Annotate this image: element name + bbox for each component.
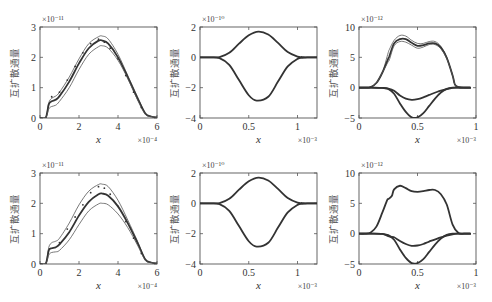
x-tick-label: 2 (77, 121, 82, 132)
x-exponent-label: ×10⁻³ (457, 136, 477, 145)
data-point (82, 204, 84, 206)
x-tick-label: 0.5 (243, 267, 256, 278)
data-point (125, 75, 127, 77)
x-axis-label: x (255, 279, 261, 291)
x-tick-label: 0.5 (411, 121, 424, 132)
series-line-negative-deep (359, 234, 470, 264)
series-line-negative (200, 203, 317, 246)
series-line-lower (359, 41, 470, 87)
plot-area (359, 35, 470, 118)
axes-frame (359, 173, 476, 264)
data-point (117, 205, 119, 207)
x-tick-label: 0.5 (411, 267, 424, 278)
data-point (103, 41, 105, 43)
y-axis-label: 互扩散通量 (169, 194, 180, 244)
data-point (90, 43, 92, 45)
series-line-positive (200, 32, 317, 58)
x-tick-label: 2 (77, 267, 82, 278)
series-line-mean (40, 40, 157, 119)
y-tick-label: 0 (350, 228, 355, 239)
x-tick-label: 1 (474, 121, 479, 132)
axes-frame (200, 27, 317, 118)
plot-area (359, 186, 470, 264)
y-tick-label: 3 (31, 168, 36, 179)
y-tick-label: 10 (345, 22, 355, 33)
y-tick-label: −4 (185, 259, 196, 270)
data-point (109, 193, 111, 195)
x-tick-label: 4 (116, 121, 121, 132)
y-exponent-label: ×10⁻¹⁰ (202, 15, 224, 24)
x-exponent-label: ×10⁻⁴ (137, 136, 157, 145)
y-exponent-label: ×10⁻¹¹ (42, 161, 64, 170)
data-point (74, 66, 76, 68)
data-point (117, 58, 119, 60)
series-line-negative (200, 57, 317, 100)
x-axis-label: x (414, 279, 420, 291)
y-tick-label: 10 (345, 168, 355, 179)
subplot-bottom-middle: 00.51−4−202×10⁻¹⁰×10⁻³x互扩散通量 (169, 161, 318, 291)
x-tick-label: 0.5 (243, 121, 256, 132)
y-tick-label: −4 (185, 113, 196, 124)
x-axis-label: x (95, 279, 101, 291)
data-point (141, 106, 143, 108)
y-axis-label: 互扩散通量 (9, 48, 20, 98)
figure: 02460123×10⁻¹¹×10⁻⁴x互扩散通量00.51−4−202×10⁻… (0, 0, 492, 302)
x-tick-label: 1 (295, 267, 300, 278)
data-point (98, 38, 100, 40)
data-point (125, 221, 127, 223)
data-point (74, 216, 76, 218)
data-point (141, 252, 143, 254)
plot-area (40, 184, 157, 265)
y-axis-label: 互扩散通量 (9, 194, 20, 244)
series-line-lower (40, 46, 157, 119)
y-axis-label: 互扩散通量 (169, 48, 180, 98)
subplot-bottom-right: 00.51−50510×10⁻¹²×10⁻³x互扩散通量 (328, 161, 479, 291)
data-point (133, 237, 135, 239)
plot-area (40, 36, 157, 119)
y-tick-label: 0 (191, 198, 196, 209)
data-point (59, 242, 61, 244)
data-point (133, 91, 135, 93)
x-tick-label: 4 (116, 267, 121, 278)
data-point (66, 79, 68, 81)
y-axis-label: 互扩散通量 (328, 48, 339, 98)
data-point (66, 228, 68, 230)
x-tick-label: 0 (357, 267, 362, 278)
x-tick-label: 0 (357, 121, 362, 132)
plot-area (200, 32, 317, 101)
series-line-positive (359, 186, 470, 234)
y-tick-label: 5 (350, 52, 355, 63)
x-tick-label: 0 (38, 267, 43, 278)
y-tick-label: 2 (31, 198, 36, 209)
x-tick-label: 1 (474, 267, 479, 278)
subplot-top-right: 00.51−50510×10⁻¹²×10⁻³x互扩散通量 (328, 15, 479, 145)
y-tick-label: 2 (31, 52, 36, 63)
data-point (49, 248, 51, 250)
series-line-positive (200, 178, 317, 204)
y-tick-label: 5 (350, 198, 355, 209)
plot-area (200, 178, 317, 247)
y-tick-label: −2 (185, 82, 196, 93)
y-exponent-label: ×10⁻¹⁰ (202, 161, 224, 170)
series-line-negative-deep (359, 88, 470, 118)
y-tick-label: 0 (31, 113, 36, 124)
y-tick-label: 0 (31, 259, 36, 270)
x-tick-label: 0 (38, 121, 43, 132)
x-tick-label: 1 (295, 121, 300, 132)
axes-frame (200, 173, 317, 264)
subplot-top-middle: 00.51−4−202×10⁻¹⁰×10⁻³x互扩散通量 (169, 15, 318, 145)
subplot-top-left: 02460123×10⁻¹¹×10⁻⁴x互扩散通量 (9, 15, 160, 145)
x-tick-label: 0 (198, 121, 203, 132)
series-line-negative-shallow (359, 234, 470, 246)
data-point (98, 186, 100, 188)
series-line-lower (40, 203, 157, 264)
y-exponent-label: ×10⁻¹² (361, 161, 383, 170)
y-exponent-label: ×10⁻¹² (361, 15, 383, 24)
data-point (103, 187, 105, 189)
y-tick-label: 1 (31, 228, 36, 239)
y-tick-label: −2 (185, 228, 196, 239)
x-exponent-label: ×10⁻⁴ (137, 282, 157, 291)
series-line-upper (40, 184, 157, 265)
y-tick-label: 1 (31, 82, 36, 93)
x-exponent-label: ×10⁻³ (298, 282, 318, 291)
